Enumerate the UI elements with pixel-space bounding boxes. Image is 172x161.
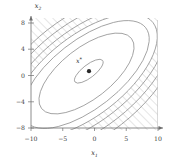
- x-axis-arrow: [159, 126, 164, 130]
- x-tick-label-0: −10: [24, 135, 37, 142]
- x-tick-label-1: −5: [58, 135, 67, 142]
- contour-plot-figure: −10 −5 0 5 10 −8 −4 0 4 8 x1 x2 x*: [0, 0, 172, 161]
- y-tick-label-0: −8: [16, 124, 25, 131]
- y-tick-label-1: −4: [16, 98, 25, 105]
- y-tick-label-2: 0: [21, 72, 25, 79]
- x-axis-title-subscript: 1: [95, 153, 98, 158]
- y-axis-title: x2: [35, 2, 42, 11]
- y-tick-label-3: 4: [21, 45, 25, 52]
- x-tick-label-4: 10: [154, 135, 162, 142]
- x-tick-labels: −10 −5 0 5 10: [24, 135, 162, 142]
- optimum-marker-dot: [87, 69, 91, 73]
- plot-canvas: −10 −5 0 5 10 −8 −4 0 4 8 x1 x2 x*: [0, 0, 172, 161]
- x-tick-label-2: 0: [93, 135, 97, 142]
- y-tick-labels: −8 −4 0 4 8: [16, 19, 25, 131]
- x-tick-label-3: 5: [124, 135, 128, 142]
- y-axis-title-subscript: 2: [37, 6, 41, 11]
- y-tick-label-4: 8: [21, 19, 25, 26]
- x-axis-title: x1: [91, 149, 98, 158]
